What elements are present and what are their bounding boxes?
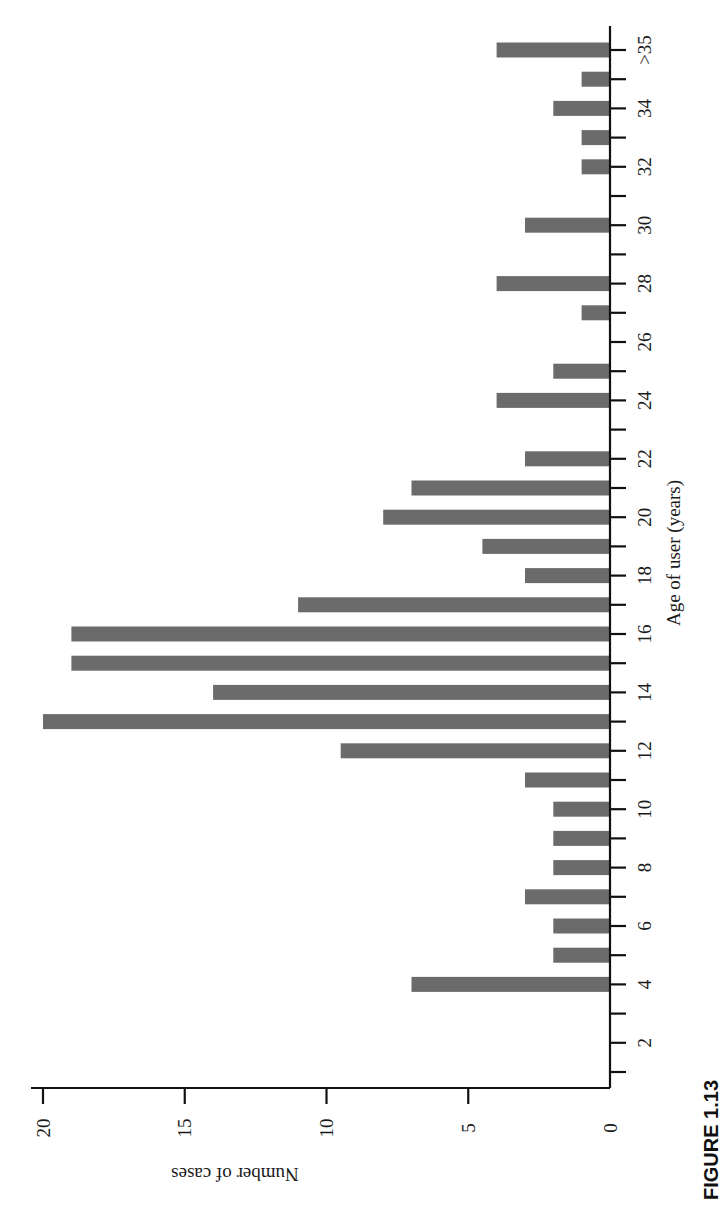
bar-age-24 <box>497 393 610 408</box>
axes-group <box>31 26 610 1088</box>
age-tick-label: 6 <box>634 921 655 931</box>
bar-age-16 <box>71 627 610 642</box>
cases-tick-label: 15 <box>174 1119 195 1138</box>
bar-age-12 <box>341 743 610 758</box>
bar-age-35 <box>582 72 610 87</box>
bar-age-5 <box>553 948 610 963</box>
bar-age-30 <box>525 218 610 233</box>
bar-age-25 <box>553 364 610 379</box>
age-tick-label: 34 <box>634 98 655 118</box>
age-tick-label: 24 <box>634 390 655 410</box>
age-tick-label: 4 <box>634 979 655 989</box>
age-tick-label: 22 <box>634 449 655 468</box>
bar-age-15 <box>71 656 610 671</box>
bar-age-20 <box>383 510 610 525</box>
age-tick-label: 8 <box>634 863 655 873</box>
bar-age-33 <box>582 130 610 145</box>
age-tick-label: 26 <box>634 333 655 352</box>
bar-age-32 <box>582 159 610 174</box>
bar-age-28 <box>497 276 610 291</box>
y-axis-title: Number of cases <box>171 1164 299 1185</box>
bar-age-10 <box>553 802 610 817</box>
age-tick-label: 10 <box>634 800 655 819</box>
age-tick-label: >35 <box>634 35 655 65</box>
bar-age-27 <box>582 305 610 320</box>
bar-age-34 <box>553 101 610 116</box>
age-tick-label: 14 <box>634 682 655 702</box>
bar-age-6 <box>553 919 610 934</box>
age-tick-label: 32 <box>634 157 655 176</box>
bars-group <box>43 43 610 992</box>
age-tick-label: 18 <box>634 566 655 585</box>
bar-age-9 <box>553 831 610 846</box>
age-tick-label: 28 <box>634 274 655 293</box>
age-axis-ticks: 246810121416182022242628303234>35 <box>610 35 655 1072</box>
age-tick-label: 30 <box>634 216 655 235</box>
figure-caption: FIGURE 1.13 <box>700 1080 722 1200</box>
age-tick-label: 2 <box>634 1038 655 1048</box>
bar-age-4 <box>412 977 611 992</box>
bar-age-8 <box>553 860 610 875</box>
bar-age-11 <box>525 773 610 788</box>
age-tick-label: 16 <box>634 625 655 644</box>
cases-axis-ticks: 05101520 <box>33 1088 621 1138</box>
bar-chart: 246810121416182022242628303234>35 051015… <box>0 0 726 1205</box>
cases-tick-label: 20 <box>33 1119 54 1138</box>
cases-tick-label: 10 <box>316 1119 337 1138</box>
cases-tick-label: 5 <box>458 1123 479 1133</box>
x-axis-title: Age of user (years) <box>663 480 685 626</box>
bar-age-21 <box>412 481 611 496</box>
bar-age-14 <box>213 685 610 700</box>
bar-age-18 <box>525 568 610 583</box>
bar-age-over-35 <box>497 43 610 58</box>
age-tick-label: 12 <box>634 741 655 760</box>
cases-tick-label: 0 <box>600 1123 621 1133</box>
age-tick-label: 20 <box>634 508 655 527</box>
bar-age-22 <box>525 451 610 466</box>
bar-age-7 <box>525 889 610 904</box>
bar-age-19 <box>482 539 610 554</box>
bar-age-17 <box>298 597 610 612</box>
bar-age-13 <box>43 714 610 729</box>
